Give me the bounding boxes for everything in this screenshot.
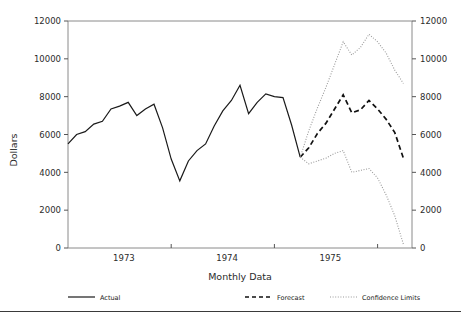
y-tick-label-right: 2000 <box>420 205 442 215</box>
y-tick-label-right: 10000 <box>420 54 447 64</box>
y-tick-label-right: 8000 <box>420 92 442 102</box>
chart-canvas: 020004000600080001000012000 020004000600… <box>0 0 461 318</box>
plot-frame <box>68 21 412 248</box>
y-tick-label-right: 6000 <box>420 130 442 140</box>
legend-label-forecast: Forecast <box>277 294 305 302</box>
forecast-chart: 020004000600080001000012000 020004000600… <box>0 0 461 318</box>
series-line-confidence-limits-upper <box>300 34 403 157</box>
y-tick-label-right: 4000 <box>420 168 442 178</box>
legend-label-actual: Actual <box>100 294 121 302</box>
y-tick-label-right: 12000 <box>420 16 447 26</box>
y-tick-label-left: 10000 <box>34 54 61 64</box>
y-axis-left: 020004000600080001000012000 <box>34 16 68 253</box>
x-axis: 197319741975 <box>113 244 378 263</box>
series-line-confidence-limits-lower <box>300 151 403 245</box>
y-tick-label-right: 0 <box>420 243 425 253</box>
y-tick-label-left: 6000 <box>39 130 61 140</box>
series-line-forecast <box>300 95 403 158</box>
data-series-group <box>68 34 403 244</box>
chart-legend: ActualForecastConfidence Limits <box>68 294 421 302</box>
y-tick-label-left: 0 <box>56 243 61 253</box>
y-tick-label-left: 8000 <box>39 92 61 102</box>
y-axis-title: Dollars <box>8 133 19 166</box>
legend-label-confidence-limits: Confidence Limits <box>362 294 421 302</box>
y-tick-label-left: 4000 <box>39 168 61 178</box>
x-tick-label: 1975 <box>319 253 341 263</box>
series-line-actual <box>68 85 300 181</box>
y-tick-label-left: 2000 <box>39 205 61 215</box>
y-tick-label-left: 12000 <box>34 16 61 26</box>
x-axis-title: Monthly Data <box>208 271 272 282</box>
y-axis-right: 020004000600080001000012000 <box>412 16 447 253</box>
x-tick-label: 1973 <box>113 253 135 263</box>
x-tick-label: 1974 <box>216 253 238 263</box>
